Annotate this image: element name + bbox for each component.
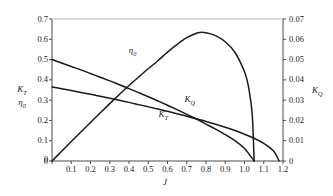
left-axis-title-line2: η0 [2,97,42,110]
data-curves [52,32,279,161]
curve-label-K_T: KT [159,110,168,121]
curve-label-eta_0: η0 [129,46,137,57]
left-axis-title-line1: KT [2,84,42,97]
right-tick-label-0.01: 0.01 [289,136,319,145]
left-axis-title: KT η0 [2,84,42,109]
right-tick-label-0: 0 [289,157,319,166]
x-axis-title: J [163,178,167,187]
right-tick-label-0.02: 0.02 [289,116,319,125]
left-tick-label-0.4: 0.4 [8,75,48,84]
right-tick-label-0.04: 0.04 [289,75,319,84]
left-tick-label-0.2: 0.2 [8,116,48,125]
right-tick-label-0.07: 0.07 [289,15,319,24]
right-axis-title: KQ [312,86,322,97]
curve-eta_0 [52,32,254,161]
curve-label-K_Q: KQ [185,95,195,106]
right-tick-label-0.05: 0.05 [289,55,319,64]
left-tick-label-0.5: 0.5 [8,55,48,64]
curve-K_T [52,60,254,161]
left-tick-label-0.6: 0.6 [8,35,48,44]
chart-figure: 00.10.20.30.40.50.60.7 00.010.020.030.04… [0,0,333,196]
right-tick-label-0.06: 0.06 [289,35,319,44]
x-tick-label-0: 0 [35,155,57,164]
left-tick-label-0.1: 0.1 [8,136,48,145]
left-tick-label-0.7: 0.7 [8,15,48,24]
x-tick-label-1.2: 1.2 [272,165,294,174]
